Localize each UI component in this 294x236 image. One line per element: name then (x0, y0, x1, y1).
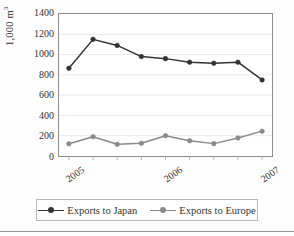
chart-legend: Exports to Japan Exports to Europe (36, 199, 258, 221)
legend-marker-japan (38, 206, 64, 215)
legend-item-europe[interactable]: Exports to Europe (150, 205, 255, 216)
legend-label-europe: Exports to Europe (179, 205, 255, 216)
chart-figure: 1,000 m3 1400120010008006004002000 20052… (0, 0, 294, 236)
x-tick-label: 2006 (161, 164, 184, 184)
legend-item-japan[interactable]: Exports to Japan (38, 205, 137, 216)
x-tick-label: 2005 (64, 164, 87, 184)
legend-marker-europe (150, 206, 176, 215)
legend-label-japan: Exports to Japan (67, 205, 137, 216)
x-tick-label: 2007 (259, 164, 282, 184)
bottom-divider (0, 231, 294, 232)
